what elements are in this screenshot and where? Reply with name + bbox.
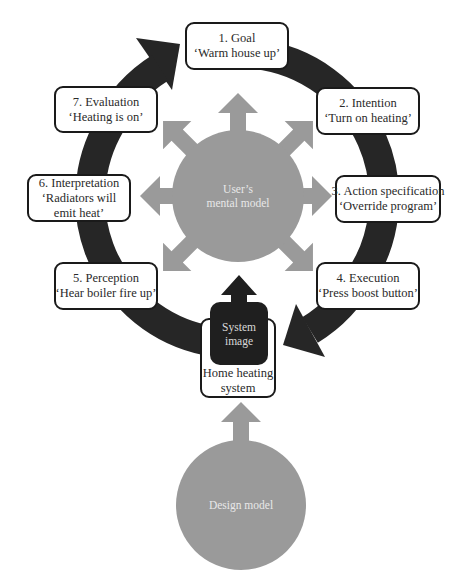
mental-model-label-line1: User’s (188, 182, 288, 196)
stage-intention-example: ‘Turn on heating’ (324, 111, 412, 126)
design-model-label: Design model (181, 498, 301, 512)
home-heating-system-label-line2: system (200, 381, 276, 396)
stage-evaluation-title: 7. Evaluation (73, 95, 140, 110)
stage-evaluation-example: ‘Heating is on’ (69, 110, 144, 125)
home-heating-system-label-line1: Home heating (200, 366, 276, 381)
stage-goal-title: 1. Goal (219, 31, 256, 46)
stage-perception-box: 5. Perception ‘Hear boiler fire up’ (54, 262, 158, 310)
system-image-label-line2: image (225, 334, 253, 348)
home-heating-system-label: Home heating system (200, 366, 276, 396)
stage-intention-title: 2. Intention (339, 96, 397, 111)
stage-perception-example: ‘Hear boiler fire up’ (56, 286, 157, 301)
stage-execution-box: 4. Execution ‘Press boost button’ (316, 262, 420, 310)
stage-interpretation-example: ‘Radiators will (42, 191, 117, 206)
stage-interpretation-box: 6. Interpretation ‘Radiators will emit h… (27, 174, 131, 222)
stage-interpretation-example-line2: emit heat’ (54, 206, 104, 221)
stage-execution-title: 4. Execution (336, 271, 399, 286)
stage-evaluation-box: 7. Evaluation ‘Heating is on’ (54, 86, 158, 133)
system-image-label-line1: System (222, 320, 256, 334)
system-image-box: System image (210, 302, 268, 365)
stage-perception-title: 5. Perception (73, 271, 139, 286)
stage-goal-example: ‘Warm house up’ (194, 46, 280, 61)
stage-goal-box: 1. Goal ‘Warm house up’ (185, 22, 289, 70)
stage-intention-box: 2. Intention ‘Turn on heating’ (316, 87, 420, 135)
stage-action-specification-title: 3. Action specification (332, 184, 445, 199)
stage-action-specification-box: 3. Action specification ‘Override progra… (335, 175, 441, 223)
stage-execution-example: ‘Press boost button’ (318, 286, 418, 301)
mental-model-label: User’s mental model (188, 182, 288, 210)
stage-interpretation-title: 6. Interpretation (39, 176, 120, 191)
stage-action-specification-example: ‘Override program’ (339, 199, 437, 214)
mental-model-label-line2: mental model (188, 196, 288, 210)
